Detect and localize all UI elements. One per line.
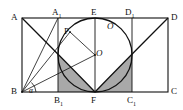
label-alpha: α: [29, 86, 33, 95]
label-C: C: [171, 87, 177, 96]
label-D1: D1: [125, 8, 135, 19]
label-O-upper: O: [107, 22, 114, 31]
label-D: D: [171, 13, 178, 22]
label-F: F: [91, 96, 96, 105]
label-B1: B1: [54, 96, 63, 107]
point-dot-P: [69, 31, 71, 33]
label-C1: C1: [127, 96, 136, 107]
point-dot-B: [21, 91, 23, 93]
label-B: B: [11, 87, 17, 96]
label-E: E: [91, 8, 97, 17]
label-P: P: [64, 27, 69, 36]
label-A1: A1: [52, 8, 62, 19]
geometry-figure: A A1 E D1 D P O O B α B1 F C1 C: [0, 0, 183, 110]
label-A: A: [11, 13, 18, 22]
label-O-center: O: [96, 49, 103, 58]
